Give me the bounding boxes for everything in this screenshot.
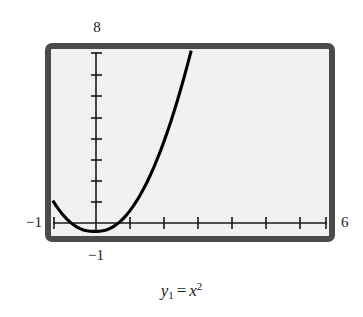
caption-equals-sign: = (174, 281, 190, 300)
calculator-screen-frame (45, 43, 335, 242)
caption-lhs-subscript: 1 (168, 289, 174, 301)
graphing-calculator-figure: 8 −1 −1 6 y1=x2 (0, 0, 363, 317)
y-axis-max-label: 8 (89, 20, 105, 35)
caption-rhs-variable: x (189, 281, 197, 300)
figure-caption: y1=x2 (0, 281, 363, 301)
x-axis-min-label: −1 (82, 248, 110, 263)
caption-rhs-exponent: 2 (197, 280, 203, 292)
y-axis-min-label: −1 (15, 215, 42, 230)
x-axis-max-label: 6 (341, 215, 359, 230)
calculator-screen-interior (51, 49, 329, 236)
